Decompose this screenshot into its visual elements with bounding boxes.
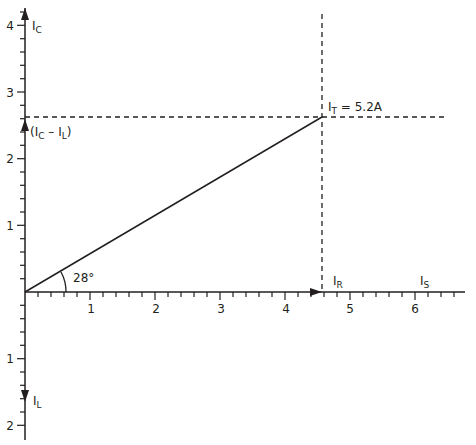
ic-label: IC <box>32 19 42 35</box>
y-tick-labels: 1 2 3 4 1 2 <box>6 19 14 433</box>
svg-text:4: 4 <box>282 302 290 316</box>
svg-text:1: 1 <box>87 302 95 316</box>
svg-text:6: 6 <box>411 302 419 316</box>
svg-text:1: 1 <box>6 219 14 233</box>
ic-minus-il-label: (IC – IL) <box>30 125 71 141</box>
ir-label: IR <box>333 274 343 290</box>
svg-text:5: 5 <box>346 302 354 316</box>
phasor-diagram: 1 2 3 4 5 6 1 2 3 4 1 2 IC (IC – IL) IL … <box>0 0 476 445</box>
svg-text:3: 3 <box>217 302 225 316</box>
svg-text:2: 2 <box>6 152 14 166</box>
x-tick-labels: 1 2 3 4 5 6 <box>87 302 419 316</box>
angle-label: 28° <box>73 271 94 285</box>
svg-text:2: 2 <box>6 419 14 433</box>
ic-arrow-icon <box>21 8 29 20</box>
ir-arrow-icon <box>310 288 322 296</box>
angle-arc <box>61 272 66 292</box>
il-label: IL <box>33 394 42 410</box>
ic-il-arrow-icon <box>21 119 29 131</box>
svg-text:1: 1 <box>6 352 14 366</box>
x-axis-ticks <box>38 292 454 300</box>
it-phasor-line <box>25 117 322 292</box>
svg-text:4: 4 <box>6 19 14 33</box>
il-arrow-icon <box>21 390 29 402</box>
y-axis-ticks <box>17 12 25 425</box>
svg-text:3: 3 <box>6 86 14 100</box>
is-label: IS <box>420 274 430 290</box>
svg-text:2: 2 <box>152 302 160 316</box>
it-label: IT = 5.2A <box>328 100 383 116</box>
